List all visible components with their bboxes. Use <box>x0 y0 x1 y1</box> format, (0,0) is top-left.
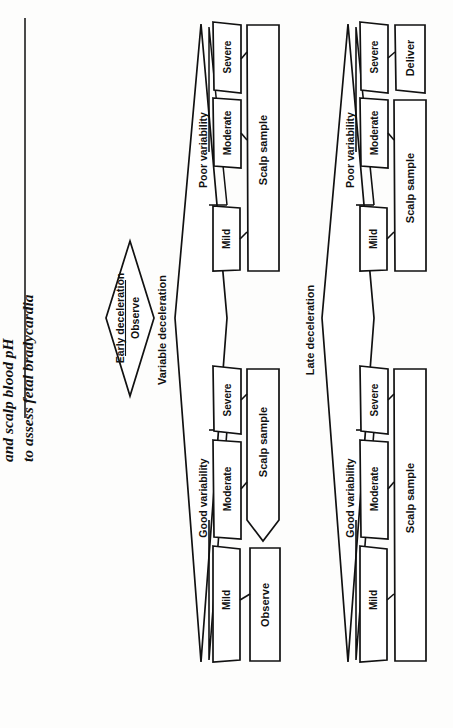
label-late-poor-mild: Mild <box>368 229 379 249</box>
label-late-good-moderate: Moderate <box>369 466 380 511</box>
label-variable-good-severe: Severe <box>222 383 233 416</box>
variable-poor-variability-label: Poor variability <box>197 112 209 188</box>
label-late-poor-severe: Severe <box>369 40 380 73</box>
early-deceleration-action: Observe <box>129 297 141 339</box>
label-variable-poor-mild: Mild <box>221 229 232 249</box>
label-variable-poor-severe: Severe <box>222 40 233 73</box>
label-variable-poor-moderate: Moderate <box>222 110 233 155</box>
label-variable-good-mild: Mild <box>221 590 232 610</box>
node-early-deceleration: Early deceleration Observe <box>106 241 154 396</box>
late-deceleration-label: Late deceleration <box>304 284 316 375</box>
figure-page: FIGURE 14-2 Using FHR monitoring and sca… <box>0 0 453 728</box>
early-deceleration-label: Early deceleration <box>114 273 126 363</box>
label-late-poor-scalp-sample: Scalp sample <box>404 153 416 223</box>
flowchart-svg: Early deceleration Observe Variable dece… <box>0 0 453 728</box>
label-late-good-mild: Mild <box>368 590 379 610</box>
late-poor-variability-label: Poor variability <box>344 112 356 188</box>
label-variable-good-observe: Observe <box>259 583 271 627</box>
label-late-good-scalp-sample: Scalp sample <box>404 463 416 533</box>
label-late-poor-moderate: Moderate <box>369 110 380 155</box>
label-variable-good-scalp-sample: Scalp sample <box>257 407 269 477</box>
variable-good-variability-label: Good variability <box>197 458 209 538</box>
label-variable-poor-scalp-sample: Scalp sample <box>257 115 269 185</box>
label-late-good-severe: Severe <box>369 383 380 416</box>
late-good-variability-label: Good variability <box>344 458 356 538</box>
label-late-poor-deliver: Deliver <box>404 39 416 76</box>
label-variable-good-moderate: Moderate <box>222 466 233 511</box>
variable-deceleration-label: Variable deceleration <box>156 275 168 385</box>
